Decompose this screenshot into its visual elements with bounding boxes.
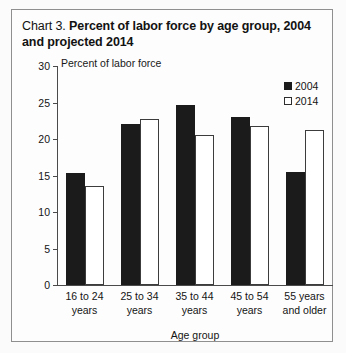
bar-2004-1[interactable]: [66, 173, 85, 285]
x-tick-label-line: years: [231, 304, 269, 318]
x-tick-label-line: years: [66, 304, 104, 318]
x-tick-label-line: and older: [283, 304, 327, 318]
y-tick-label: 5: [44, 243, 50, 255]
chart-screenshot: Chart 3. Percent of labor force by age g…: [0, 0, 346, 353]
x-tick-label-line: 55 years: [283, 290, 327, 304]
x-tick-label-line: 25 to 34: [121, 290, 159, 304]
x-tick-label: 55 yearsand older: [283, 290, 327, 317]
plot-area: 051015202530 16 to 24years25 to 34years3…: [57, 66, 332, 285]
bar-2014-3[interactable]: [195, 135, 214, 285]
chart-title: Chart 3. Percent of labor force by age g…: [22, 18, 324, 50]
bar-2004-4[interactable]: [231, 117, 250, 285]
bar-group: 45 to 54years: [222, 66, 277, 285]
bar-group: 35 to 44years: [167, 66, 222, 285]
x-tick-label: 16 to 24years: [66, 290, 104, 317]
x-tick-label-line: years: [121, 304, 159, 318]
x-axis-line: [57, 285, 333, 286]
bar-group: 16 to 24years: [57, 66, 112, 285]
chart-frame: Chart 3. Percent of labor force by age g…: [11, 9, 333, 342]
bar-2014-4[interactable]: [250, 126, 269, 285]
x-tick-label: 25 to 34years: [121, 290, 159, 317]
bar-2004-5[interactable]: [286, 172, 305, 285]
y-tick-label: 15: [38, 170, 50, 182]
bar-group: 55 yearsand older: [277, 66, 332, 285]
chart-title-prefix: Chart 3.: [22, 19, 66, 33]
y-tick-mark: [53, 285, 58, 286]
bar-2004-3[interactable]: [176, 105, 195, 285]
bar-group: 25 to 34years: [112, 66, 167, 285]
y-tick-label: 30: [38, 60, 50, 72]
x-axis-label: Age group: [57, 329, 333, 341]
bar-2014-5[interactable]: [305, 130, 324, 285]
bar-2014-2[interactable]: [140, 119, 159, 285]
chart-title-main: Percent of labor force by age group, 200…: [22, 19, 311, 49]
y-tick-label: 10: [38, 206, 50, 218]
y-tick-label: 20: [38, 133, 50, 145]
bar-2004-2[interactable]: [121, 124, 140, 285]
x-tick-label: 45 to 54years: [231, 290, 269, 317]
y-tick-label: 25: [38, 97, 50, 109]
y-tick-label: 0: [44, 279, 50, 291]
bar-2014-1[interactable]: [85, 186, 104, 285]
x-tick-label: 35 to 44years: [176, 290, 214, 317]
x-tick-label-line: 16 to 24: [66, 290, 104, 304]
x-tick-label-line: 45 to 54: [231, 290, 269, 304]
x-tick-label-line: 35 to 44: [176, 290, 214, 304]
x-tick-label-line: years: [176, 304, 214, 318]
